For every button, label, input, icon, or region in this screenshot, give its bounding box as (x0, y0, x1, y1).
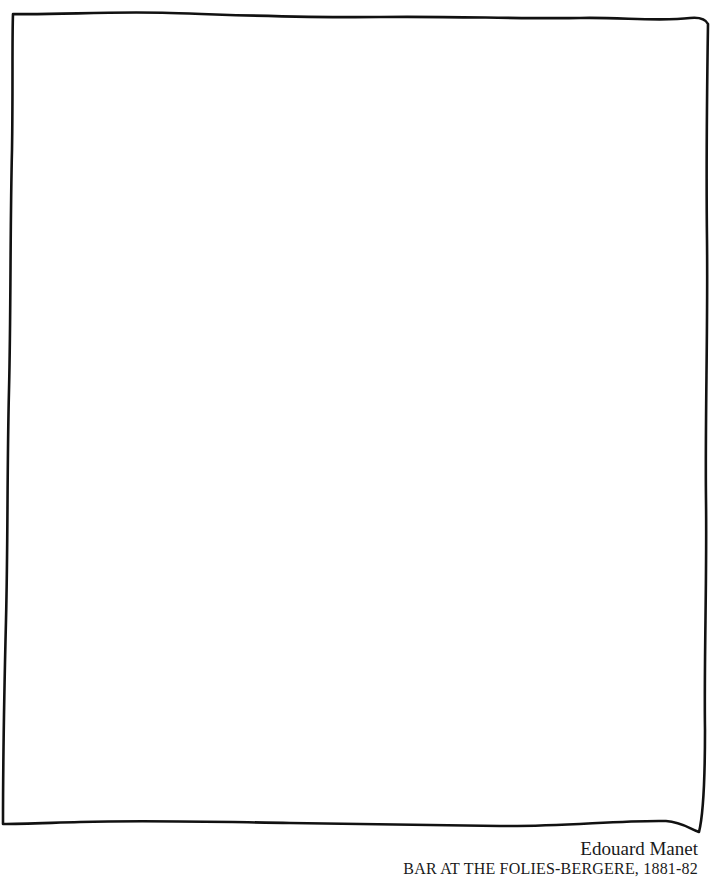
artist-name: Edouard Manet (403, 838, 698, 860)
artwork-title: BAR AT THE FOLIES-BERGERE, 1881-82 (403, 860, 698, 878)
artwork-caption: Edouard Manet BAR AT THE FOLIES-BERGERE,… (403, 838, 698, 878)
